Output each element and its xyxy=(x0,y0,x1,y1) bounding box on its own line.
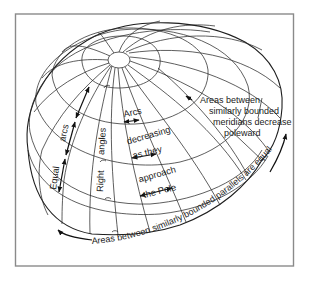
note-line-2: similarly bounded xyxy=(209,106,279,116)
label-the-pole: the Pole xyxy=(142,182,177,200)
label-angles: angles xyxy=(96,127,108,155)
parallels-note: Areas between similarly bounded parallel… xyxy=(91,144,274,246)
note-line-1: Areas between xyxy=(200,95,260,105)
globe-graticule-figure: Arcs decreasing as they approach the Pol… xyxy=(0,0,311,283)
pole-circle xyxy=(108,52,130,68)
parallels-note-path: Areas between similarly bounded parallel… xyxy=(91,144,274,246)
label-arcs: Arcs xyxy=(122,106,142,120)
label-right: Right xyxy=(95,170,106,192)
bottom-arrow-right xyxy=(270,134,286,172)
label-approach: approach xyxy=(137,164,177,184)
bottom-arrow-left xyxy=(58,230,92,240)
label-arcs-vertical: arcs xyxy=(57,123,70,142)
note-line-4: poleward xyxy=(224,128,261,138)
note-line-3: meridians decrease xyxy=(213,117,292,127)
label-equal: Equal xyxy=(48,166,61,191)
label-decreasing: decreasing xyxy=(126,124,172,146)
